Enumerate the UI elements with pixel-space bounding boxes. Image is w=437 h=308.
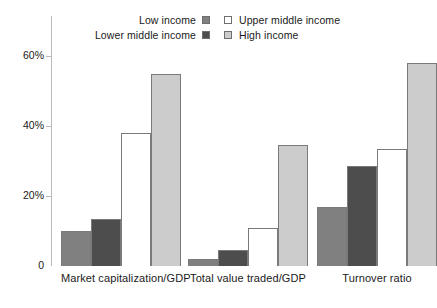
bar-group: Turnover ratio: [317, 54, 437, 266]
x-axis-baseline: [51, 266, 437, 267]
bar: [278, 145, 308, 266]
bar: [151, 74, 181, 267]
bar: [407, 63, 437, 266]
bar-group-bars: [188, 54, 308, 266]
y-axis-tick-label: 60%: [2, 50, 44, 61]
y-axis-line: [51, 16, 52, 266]
x-axis-group-label: Turnover ratio: [317, 272, 437, 285]
bar: [218, 250, 248, 266]
plot-area: 60%40%20%0 Market capitalization/GDPTota…: [0, 0, 437, 308]
y-axis-tick-label: 20%: [2, 190, 44, 201]
y-axis-tick-label: 0: [2, 260, 44, 271]
bar: [248, 228, 278, 267]
bar: [317, 207, 347, 267]
bar: [91, 219, 121, 266]
y-axis-tick: [46, 56, 51, 57]
bar-group: Total value traded/GDP: [188, 54, 308, 266]
bar-group-bars: [61, 54, 181, 266]
bar: [377, 149, 407, 266]
bar-chart: Low income Upper middle income Lower mid…: [0, 0, 437, 308]
y-axis-tick: [46, 196, 51, 197]
bar: [347, 166, 377, 266]
y-axis-tick-label: 40%: [2, 120, 44, 131]
x-axis-group-label: Total value traded/GDP: [188, 272, 308, 285]
bar: [121, 133, 151, 266]
bar-group: Market capitalization/GDP: [61, 54, 181, 266]
x-axis-group-label: Market capitalization/GDP: [61, 272, 181, 285]
y-axis-tick: [46, 126, 51, 127]
bar: [188, 259, 218, 266]
bar-group-bars: [317, 54, 437, 266]
bar: [61, 231, 91, 266]
